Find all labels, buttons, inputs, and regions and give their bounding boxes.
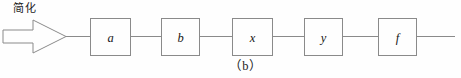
simplify-annotation-label: 简化 [13, 3, 36, 14]
block-b-label: b [177, 31, 183, 45]
block-x-label: x [249, 31, 256, 45]
block-y: y [305, 19, 343, 56]
block-b: b [162, 19, 200, 56]
block-diagram-figure: a b x y f 简化 （b） [0, 0, 461, 78]
figure-caption-text: （b） [229, 59, 263, 73]
block-arrow-right-icon [3, 20, 66, 53]
block-a-label: a [107, 31, 113, 45]
block-f-label: f [396, 31, 401, 45]
figure-caption: （b） [0, 60, 461, 73]
block-f: f [379, 19, 417, 56]
block-a: a [91, 19, 131, 56]
block-x: x [233, 19, 273, 56]
block-y-label: y [319, 31, 327, 45]
arrow-outline [3, 20, 66, 53]
